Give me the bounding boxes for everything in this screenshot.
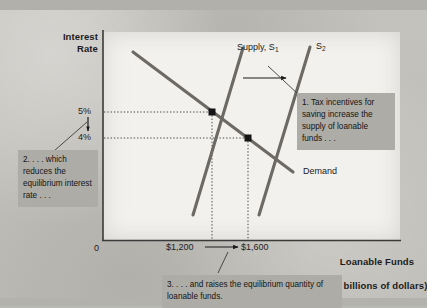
- supply-curve-s1-label: Supply, S1: [227, 31, 279, 65]
- supply-curve-s1-label-text: Supply, S: [237, 42, 275, 52]
- callout-raises-quantity: 3. . . . and raises the equilibrium quan…: [162, 275, 342, 308]
- guide-lines: [104, 112, 248, 240]
- demand-curve-label: Demand: [303, 166, 337, 177]
- supply-curve-s2-label: S2: [306, 30, 326, 64]
- supply-curve-s2-label-subscript: 2: [322, 45, 326, 52]
- x-axis-title-line-2: (in billions of dollars): [329, 280, 427, 291]
- callout-reduces-interest-rate: 2. . . . which reduces the equilibrium i…: [18, 150, 98, 207]
- equilibrium-point-new: [245, 135, 252, 142]
- leader-line-callout-3: [218, 252, 228, 273]
- supply-curve-s1[interactable]: [193, 48, 243, 215]
- curves: [133, 47, 310, 215]
- x-tick-label-1200: $1,200: [166, 242, 194, 253]
- x-tick-label-1600: $1,600: [241, 242, 269, 253]
- x-axis-title-line-1: Loanable Funds: [340, 256, 414, 267]
- callout-tax-incentives: 1. Tax incentives for saving increase th…: [297, 93, 395, 150]
- supply-curve-s1-label-subscript: 1: [275, 46, 279, 53]
- leader-line-callout-1: [268, 66, 299, 95]
- origin-label: 0: [94, 243, 99, 254]
- y-tick-label-5-percent: 5%: [78, 106, 91, 117]
- y-tick-label-4-percent: 4%: [78, 132, 91, 143]
- equilibrium-point-initial: [209, 109, 216, 116]
- y-axis-title: Interest Rate: [36, 31, 98, 55]
